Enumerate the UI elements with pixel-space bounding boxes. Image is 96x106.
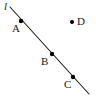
point-dot-c — [71, 75, 75, 79]
point-label-d: D — [77, 16, 85, 27]
point-dot-b — [50, 52, 54, 56]
point-dot-d — [70, 20, 74, 24]
line-label-l: l — [4, 1, 7, 12]
point-label-c: C — [64, 79, 71, 90]
geometry-figure: l A B C D — [0, 0, 96, 106]
point-label-a: A — [12, 23, 20, 34]
point-label-b: B — [41, 56, 48, 67]
